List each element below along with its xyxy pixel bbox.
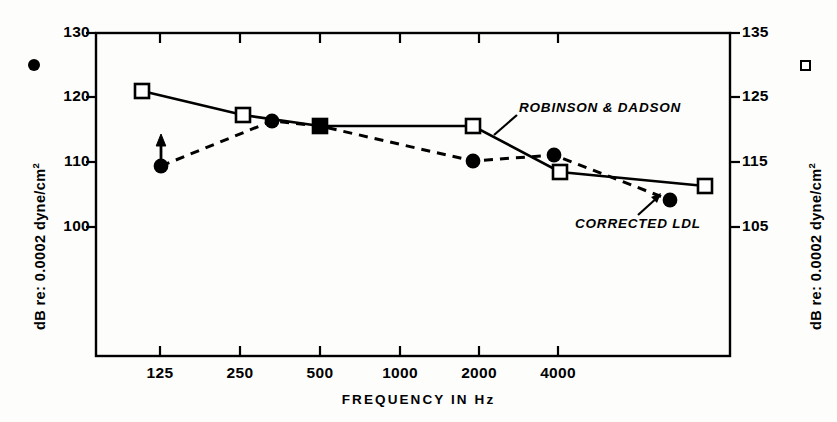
plot-area: ROBINSON & DADSON CORRECTED LDL [0,0,837,422]
series-corrected-ldl-markers [154,114,678,208]
y-left-axis-ticks [86,33,96,227]
marker-open-square [466,119,480,133]
marker-filled-circle [547,148,562,163]
marker-filled-circle [663,193,678,208]
y-right-axis-ticks [730,33,740,227]
marker-filled-circle [466,154,481,169]
annotation-corrected-ldl: CORRECTED LDL [575,216,701,231]
x-axis-ticks [160,346,558,356]
annotation-robinson-dadson: ROBINSON & DADSON [519,100,681,115]
marker-open-square [553,165,567,179]
marker-filled-circle [265,114,280,129]
leader-line-robinson-dadson [494,115,517,135]
top-axis-ticks [160,33,558,43]
figure-canvas: dB re: 0.0002 dyne/cm2 dB re: 0.0002 dyn… [0,0,837,422]
plot-frame [96,33,730,356]
marker-filled-square-overlap [313,119,327,133]
marker-open-square [698,179,712,193]
series-corrected-ldl-line [161,121,670,200]
marker-open-square [135,84,149,98]
marker-open-square [236,108,250,122]
